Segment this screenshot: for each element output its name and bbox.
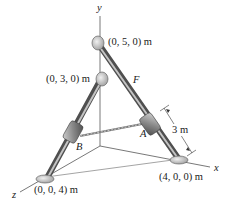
mid-support-label: (0, 3, 0) m [46,74,90,85]
z-support-label: (0, 0, 4) m [34,185,78,196]
cable [80,124,142,136]
support-plate-x [170,156,188,164]
x-axis-label: x [214,163,219,174]
rod-top-to-x [99,46,178,158]
support-plate-top [92,36,104,50]
x-axis-line [100,146,210,167]
y-axis-label: y [97,3,102,14]
force-label: F [133,75,139,86]
dimension-label: 3 m [172,125,188,136]
support-plate-z [36,175,54,183]
x-support-label: (4, 0, 0) m [159,172,203,183]
top-support-label: (0, 5, 0) m [108,37,152,48]
collar-a-label: A [140,129,146,140]
collar-b-label: B [76,142,82,153]
support-plate-mid [96,72,108,86]
z-axis-label: z [12,190,16,201]
statics-diagram: y x z (0, 5, 0) m (0, 3, 0) m (4, 0, 0) … [0,0,231,208]
